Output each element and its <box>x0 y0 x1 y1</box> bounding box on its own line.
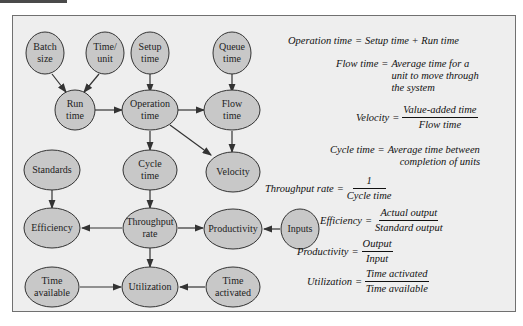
svg-text:time: time <box>141 110 159 121</box>
svg-text:Productivity: Productivity <box>208 223 257 234</box>
svg-text:Time: Time <box>42 275 63 286</box>
svg-text:time: time <box>66 110 84 121</box>
formula-cycle-time: Cycle time = Average time between comple… <box>330 144 480 168</box>
svg-text:Batch: Batch <box>33 41 56 52</box>
formula-efficiency: Efficiency = Actual output Standard outp… <box>320 207 443 234</box>
svg-text:Inputs: Inputs <box>288 223 313 234</box>
formula-utilization: Utilization = Time activated Time availa… <box>307 268 429 295</box>
svg-text:Throughput: Throughput <box>126 216 173 227</box>
svg-text:Time: Time <box>223 275 244 286</box>
svg-text:Cycle: Cycle <box>138 158 162 169</box>
svg-text:Utilization: Utilization <box>129 281 172 292</box>
svg-text:available: available <box>34 287 71 298</box>
svg-text:rate: rate <box>143 228 159 239</box>
svg-text:Time/: Time/ <box>93 41 117 52</box>
svg-text:Run: Run <box>67 98 84 109</box>
formula-flow-time: Flow time = Average time for a unit to m… <box>336 58 479 94</box>
svg-text:time: time <box>141 170 159 181</box>
svg-text:Operation: Operation <box>130 98 170 109</box>
svg-text:Queue: Queue <box>219 41 246 52</box>
svg-text:time: time <box>141 53 159 64</box>
edge-operation-to-velocity <box>170 125 211 155</box>
svg-text:unit: unit <box>97 53 113 64</box>
formula-productivity: Productivity = Output Input <box>297 238 393 265</box>
svg-text:Flow: Flow <box>222 98 243 109</box>
svg-text:size: size <box>37 53 53 64</box>
formula-throughput-rate: Throughput rate = 1 Cycle time <box>265 175 391 202</box>
svg-text:Standards: Standards <box>32 164 72 175</box>
svg-text:time: time <box>223 53 241 64</box>
svg-text:Setup: Setup <box>139 41 162 52</box>
formula-velocity: Velocity = Value-added time Flow time <box>356 104 478 131</box>
svg-text:Velocity: Velocity <box>216 166 249 177</box>
svg-text:time: time <box>223 110 241 121</box>
svg-text:activated: activated <box>215 287 251 298</box>
edge-timeunit-to-run <box>84 74 99 92</box>
svg-text:Efficiency: Efficiency <box>31 222 72 233</box>
formula-operation-time: Operation time = Setup time + Run time <box>288 35 459 46</box>
edge-batch-to-run <box>52 74 66 92</box>
